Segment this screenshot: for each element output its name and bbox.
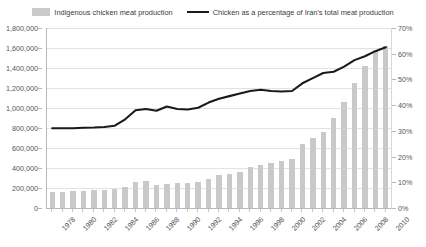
x-axis-tick-mark	[114, 209, 115, 212]
y-axis-left-tick-mark	[38, 88, 42, 89]
y-axis-left-tick-label: 1,200,000	[6, 84, 38, 93]
chart-legend: Indigenous chicken meat production Chick…	[0, 5, 426, 19]
y-axis-left-tick-mark	[38, 68, 42, 69]
percentage-line-path	[52, 47, 386, 128]
x-axis-tick-mark	[249, 209, 250, 212]
x-axis-tick-mark	[218, 209, 219, 212]
x-axis-tick-mark	[51, 209, 52, 212]
x-axis-tick-label: 1984	[122, 215, 140, 233]
y-axis-right-tick-label: 20%	[398, 152, 412, 161]
y-axis-right-tick-label: 60%	[398, 49, 412, 58]
x-axis-tick-label: 2008	[373, 215, 391, 233]
x-axis-tick-label: 1980	[81, 215, 99, 233]
y-axis-right-tick-mark	[392, 182, 396, 183]
legend-line-swatch-icon	[187, 11, 209, 13]
y-axis-right-tick-mark	[392, 131, 396, 132]
y-axis-right-tick-label: 70%	[398, 24, 412, 33]
x-axis-tick-mark	[354, 209, 355, 212]
y-axis-left-tick-mark	[38, 188, 42, 189]
x-axis-tick-label: 1990	[185, 215, 203, 233]
chart-container: Indigenous chicken meat production Chick…	[0, 0, 426, 247]
y-axis-left-tick-label: 1,800,000	[6, 24, 38, 33]
x-axis-tick-mark	[72, 209, 73, 212]
y-axis-left-tick-mark	[38, 48, 42, 49]
y-axis-left-tick-label: 1,600,000	[6, 44, 38, 53]
x-axis-tick-mark	[166, 209, 167, 212]
x-axis-tick-label: 1978	[60, 215, 78, 233]
x-axis-tick-mark	[135, 209, 136, 212]
y-axis-left-tick-label: 1,000,000	[6, 104, 38, 113]
x-axis-tick-label: 1996	[248, 215, 266, 233]
y-axis-right-tick-mark	[392, 105, 396, 106]
x-axis-tick-mark	[312, 209, 313, 212]
y-axis-right-tick-label: 30%	[398, 126, 412, 135]
x-axis: 1978198019821984198619881990199219941996…	[46, 209, 390, 247]
x-axis-tick-mark	[228, 209, 229, 212]
y-axis-left-tick-label: 600,000	[12, 144, 38, 153]
x-axis-tick-mark	[301, 209, 302, 212]
legend-bar-label: Indigenous chicken meat production	[54, 8, 172, 17]
y-axis-right-tick-mark	[392, 208, 396, 209]
x-axis-tick-mark	[103, 209, 104, 212]
x-axis-tick-mark	[260, 209, 261, 212]
x-axis-tick-mark	[374, 209, 375, 212]
x-axis-tick-mark	[385, 209, 386, 212]
y-axis-left-tick-mark	[38, 128, 42, 129]
x-axis-tick-mark	[145, 209, 146, 212]
y-axis-left-tick-label: 1,400,000	[6, 64, 38, 73]
x-axis-tick-label: 1998	[268, 215, 286, 233]
line-series-svg	[47, 28, 391, 208]
x-axis-tick-mark	[208, 209, 209, 212]
legend-line-label: Chicken as a percentage of Iran's total …	[213, 8, 394, 17]
y-axis-right-tick-mark	[392, 157, 396, 158]
plot-area	[46, 28, 392, 209]
legend-item-bar-series: Indigenous chicken meat production	[32, 8, 172, 17]
x-axis-tick-mark	[82, 209, 83, 212]
y-axis-right-tick-label: 0%	[398, 204, 408, 213]
y-axis-left-tick-mark	[38, 108, 42, 109]
y-axis-right: 70%60%50%40%30%20%10%0%	[392, 28, 426, 208]
x-axis-tick-mark	[62, 209, 63, 212]
y-axis-right-tick-mark	[392, 54, 396, 55]
legend-bar-swatch-icon	[32, 8, 50, 16]
y-axis-left-tick-mark	[38, 148, 42, 149]
x-axis-tick-label: 1992	[206, 215, 224, 233]
x-axis-tick-label: 1982	[102, 215, 120, 233]
x-axis-tick-mark	[322, 209, 323, 212]
x-axis-tick-label: 2006	[352, 215, 370, 233]
x-axis-tick-label: 1994	[227, 215, 245, 233]
x-axis-tick-mark	[239, 209, 240, 212]
x-axis-tick-label: 1986	[143, 215, 161, 233]
y-axis-left-tick-label: 400,000	[12, 164, 38, 173]
y-axis-right-tick-mark	[392, 28, 396, 29]
x-axis-tick-mark	[291, 209, 292, 212]
legend-item-line-series: Chicken as a percentage of Iran's total …	[187, 8, 394, 17]
x-axis-tick-mark	[93, 209, 94, 212]
x-axis-tick-mark	[333, 209, 334, 212]
x-axis-tick-label: 1988	[164, 215, 182, 233]
y-axis-left-tick-label: 800,000	[12, 124, 38, 133]
y-axis-left-tick-label: 200,000	[12, 184, 38, 193]
x-axis-tick-mark	[197, 209, 198, 212]
x-axis-tick-mark	[270, 209, 271, 212]
y-axis-left-tick-mark	[38, 208, 42, 209]
y-axis-right-tick-mark	[392, 79, 396, 80]
y-axis-left-tick-mark	[38, 28, 42, 29]
y-axis-left-tick-mark	[38, 168, 42, 169]
x-axis-tick-label: 2002	[310, 215, 328, 233]
x-axis-tick-label: 2004	[331, 215, 349, 233]
y-axis-right-tick-label: 10%	[398, 178, 412, 187]
x-axis-tick-mark	[187, 209, 188, 212]
x-axis-tick-mark	[124, 209, 125, 212]
y-axis-left: 1,800,0001,600,0001,400,0001,200,0001,00…	[0, 28, 42, 208]
x-axis-tick-mark	[155, 209, 156, 212]
y-axis-right-tick-label: 40%	[398, 101, 412, 110]
x-axis-tick-label: 2010	[393, 215, 411, 233]
x-axis-tick-mark	[281, 209, 282, 212]
line-series	[47, 28, 391, 208]
x-axis-tick-mark	[176, 209, 177, 212]
x-axis-tick-mark	[364, 209, 365, 212]
x-axis-tick-label: 2000	[289, 215, 307, 233]
x-axis-tick-mark	[343, 209, 344, 212]
y-axis-right-tick-label: 50%	[398, 75, 412, 84]
